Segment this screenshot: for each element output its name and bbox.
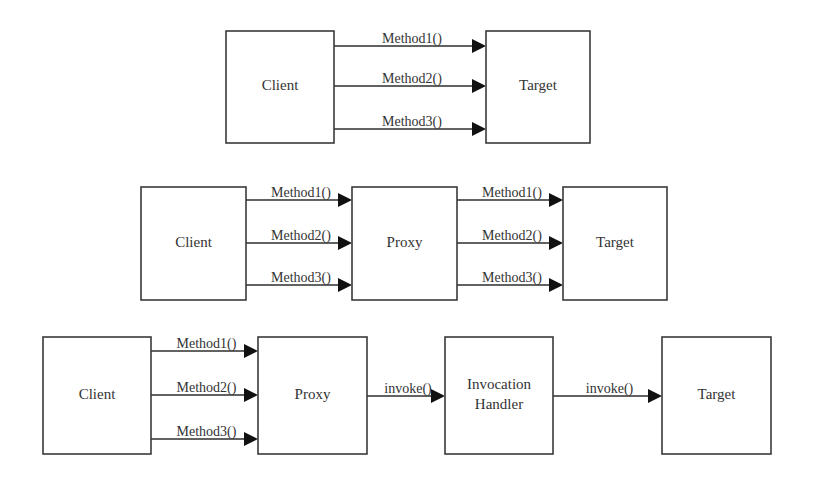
- client-box: Client: [141, 187, 246, 300]
- arrow-method1: Method1(): [246, 185, 352, 207]
- arrow-method2: Method2(): [246, 228, 352, 250]
- arrow-method2: Method2(): [151, 380, 258, 402]
- method-label: invoke(): [384, 381, 432, 397]
- client-box: Client: [43, 337, 151, 454]
- method-label: Method1(): [482, 185, 542, 201]
- client-label: Client: [175, 234, 212, 250]
- arrow-method3: Method3(): [246, 270, 352, 292]
- client-label: Client: [79, 386, 116, 402]
- arrowhead-icon: [338, 193, 352, 207]
- target-label: Target: [519, 77, 558, 93]
- arrow-method3: Method3(): [457, 270, 563, 292]
- arrow-invoke: invoke(): [367, 381, 445, 403]
- proxy-label: Proxy: [295, 386, 331, 402]
- target-box: Target: [662, 337, 771, 454]
- arrowhead-icon: [472, 122, 486, 136]
- invocation-handler-box: InvocationHandler: [445, 337, 553, 454]
- arrowhead-icon: [431, 389, 445, 403]
- arrowhead-icon: [648, 389, 662, 403]
- arrowhead-icon: [338, 278, 352, 292]
- arrowhead-icon: [549, 193, 563, 207]
- direct-call-diagram: Method1()Method2()Method3()ClientTarget: [226, 31, 590, 143]
- arrowhead-icon: [244, 344, 258, 358]
- arrowhead-icon: [244, 432, 258, 446]
- proxy-box: Proxy: [258, 337, 367, 454]
- method-label: Method2(): [271, 228, 331, 244]
- arrow-method1: Method1(): [457, 185, 563, 207]
- method-label: Method1(): [271, 185, 331, 201]
- target-label: Target: [596, 234, 635, 250]
- arrow-method3: Method3(): [151, 424, 258, 446]
- method-label: Method3(): [382, 114, 442, 130]
- arrowhead-icon: [549, 236, 563, 250]
- static-proxy-diagram: Method1()Method2()Method3()Method1()Meth…: [141, 185, 667, 300]
- method-label: invoke(): [586, 381, 634, 397]
- method-label: Method2(): [177, 380, 237, 396]
- arrow-method1: Method1(): [334, 31, 486, 53]
- dynamic-proxy-diagram: Method1()Method2()Method3()invoke()invok…: [43, 336, 771, 454]
- arrowhead-icon: [472, 79, 486, 93]
- proxy-box: Proxy: [352, 187, 457, 300]
- arrow-method2: Method2(): [334, 71, 486, 93]
- method-label: Method2(): [482, 228, 542, 244]
- client-label: Client: [262, 77, 299, 93]
- method-label: Method3(): [482, 270, 542, 286]
- proxy-label: Proxy: [387, 234, 423, 250]
- method-label: Method3(): [177, 424, 237, 440]
- method-label: Method2(): [382, 71, 442, 87]
- method-label: Method1(): [382, 31, 442, 47]
- target-box: Target: [563, 187, 667, 300]
- invocation-handler-label: Handler: [475, 396, 523, 412]
- diagram-canvas: Method1()Method2()Method3()ClientTargetM…: [0, 0, 813, 481]
- arrowhead-icon: [244, 388, 258, 402]
- arrow-method2: Method2(): [457, 228, 563, 250]
- arrow-method3: Method3(): [334, 114, 486, 136]
- arrow-invoke: invoke(): [553, 381, 662, 403]
- arrowhead-icon: [549, 278, 563, 292]
- target-box: Target: [486, 31, 590, 143]
- arrowhead-icon: [472, 39, 486, 53]
- method-label: Method3(): [271, 270, 331, 286]
- invocation-handler-label: Invocation: [467, 376, 532, 392]
- arrowhead-icon: [338, 236, 352, 250]
- arrow-method1: Method1(): [151, 336, 258, 358]
- target-label: Target: [698, 386, 737, 402]
- method-label: Method1(): [177, 336, 237, 352]
- client-box: Client: [226, 31, 334, 143]
